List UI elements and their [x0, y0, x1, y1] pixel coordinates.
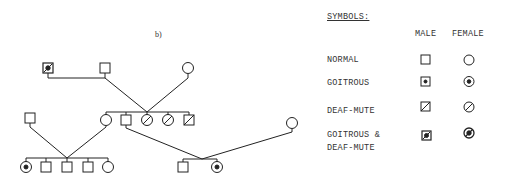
descent-line — [105, 78, 147, 112]
gen1-female-normal — [183, 63, 194, 74]
legend-female-goitrous-deaf-mute-icon — [464, 128, 474, 138]
descent-line — [126, 128, 202, 159]
legend-male-normal-icon — [421, 55, 430, 64]
gen3-male-normal — [83, 162, 93, 172]
descent-line — [67, 127, 106, 158]
descent-line — [202, 132, 292, 159]
gen3-male-normal — [178, 162, 188, 172]
gen1-male-normal — [100, 63, 110, 73]
gen2-female-normal — [101, 115, 112, 126]
gen2-spouse-male-normal — [25, 113, 35, 123]
gen3-female-goitrous — [21, 162, 32, 173]
gen3-male-normal — [62, 162, 72, 172]
legend-column-female: FEMALE — [452, 29, 484, 39]
gen1-male-goitrous-deaf-mute — [43, 63, 53, 73]
legend-female-goitrous-icon — [464, 77, 474, 87]
gen2-female-deaf-mute — [142, 115, 153, 126]
legend-male-deaf-mute-icon — [421, 102, 430, 111]
legend-male-goitrous-deaf-mute-icon — [422, 131, 431, 140]
descent-line — [147, 78, 188, 112]
legend-male-goitrous-icon — [421, 77, 430, 86]
descent-line — [30, 127, 67, 158]
legend-female-deaf-mute-icon — [464, 102, 474, 112]
legend-female-normal-icon — [464, 55, 474, 65]
legend-row-normal: NORMAL — [327, 55, 359, 65]
gen2-spouse-female-normal — [287, 118, 298, 129]
legend-row-goitrous-deaf-mute: GOITROUS & — [327, 130, 380, 140]
gen3-female-goitrous — [212, 162, 223, 173]
legend-row-deaf-mute: DEAF-MUTE — [327, 106, 375, 116]
gen2-male-normal — [121, 115, 131, 125]
legend-row-goitrous: GOITROUS — [327, 78, 369, 88]
legend-row-goitrous-deaf-mute-line2: DEAF-MUTE — [327, 143, 375, 153]
gen2-female-deaf-mute — [163, 115, 174, 126]
gen3-female-normal — [103, 162, 114, 173]
legend-title: SYMBOLS: — [327, 12, 369, 22]
gen3-male-normal — [41, 162, 51, 172]
legend-column-male: MALE — [415, 29, 436, 39]
gen2-male-deaf-mute — [184, 115, 194, 125]
pedigree-chart — [0, 0, 512, 185]
